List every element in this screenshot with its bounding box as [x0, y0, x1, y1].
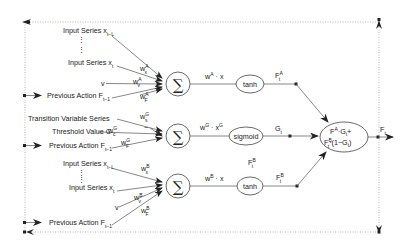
output-label: FAt — [275, 70, 283, 82]
weight-label: wAx — [139, 63, 149, 75]
input-label: Input Series xt — [69, 183, 115, 194]
block-gate: Transition Variable Series Threshold Val… — [23, 111, 318, 152]
activation-label: tanh — [243, 80, 257, 89]
activation-label: tanh — [243, 182, 257, 191]
input-label: Previous Action Ft−1 — [47, 91, 110, 102]
diagram-canvas: Input Series xt−L ⋮ ⋮ Input Series xt v … — [0, 0, 412, 250]
combiner-formula-line1: FA·Gt+ — [330, 126, 351, 137]
weight-label: wBv — [133, 192, 143, 204]
weight-label: wBx — [140, 163, 150, 175]
input-label: v — [115, 203, 119, 212]
weight-label: wBF — [140, 205, 150, 217]
minus-sign: − — [144, 123, 148, 132]
ellipsis: ⋮ — [78, 35, 85, 44]
edge-label: wB · x — [204, 173, 224, 183]
input-label: v — [101, 79, 105, 88]
edge-label: wA · x — [204, 71, 224, 81]
input-label: Previous Action Ft−1 — [49, 218, 112, 229]
input-label: Input Series xt — [68, 58, 114, 69]
combiner-formula-line2: FBt·(1−Gt) — [324, 137, 352, 149]
weight-label: wGs — [139, 111, 149, 123]
output-label: FBt — [248, 157, 256, 169]
edge-label: wG · xG — [199, 122, 223, 132]
input-label: Previous Action Ft−1 — [49, 141, 112, 152]
input-label: Input Series xt−L — [63, 159, 114, 170]
block-a: Input Series xt−L ⋮ ⋮ Input Series xt v … — [23, 26, 328, 122]
sum-icon: ∑ — [173, 128, 184, 146]
weight-label: wGF — [120, 137, 130, 149]
sum-icon: ∑ — [173, 76, 184, 94]
input-label: Threshold Value C — [52, 127, 111, 136]
combiner: FA·Gt+ FBt·(1−Gt) Ft — [320, 122, 393, 152]
sum-icon: ∑ — [173, 178, 184, 196]
block-b: Input Series xt−L ⋮ ⋮ Input Series xt v … — [23, 152, 326, 229]
weight-label: wAv — [132, 76, 142, 88]
input-label: Transition Variable Series — [28, 114, 110, 123]
ellipsis: ⋮ — [78, 45, 85, 54]
weight-label: wAF — [139, 91, 149, 103]
input-label: Input Series xt−L — [63, 26, 114, 37]
output-label: Gt — [275, 124, 283, 135]
activation-label: sigmoid — [234, 132, 259, 141]
output-label: FBt — [276, 172, 284, 184]
weight-label: wGc — [107, 125, 117, 137]
final-output-label: Ft — [380, 125, 386, 136]
